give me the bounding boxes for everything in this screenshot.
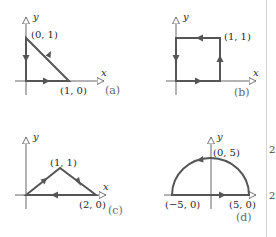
point-label-a-1-0: (1, 0) <box>60 85 87 96</box>
direction-arrow-icon <box>51 192 58 199</box>
point-label-d-5-0: (5, 0) <box>229 199 256 210</box>
panel-b: y x (1, 1) (b) <box>166 11 259 99</box>
direction-arrow-icon <box>195 78 202 85</box>
panel-c: y x (1, 1) (2, 0) (c) <box>15 131 123 217</box>
panel-tag-c: (c) <box>108 204 123 217</box>
panel-a: y x (0, 1) (1, 0) (a) <box>15 11 120 97</box>
direction-arrow-icon <box>219 192 226 199</box>
contour-a <box>26 38 69 81</box>
direction-arrow-icon <box>196 35 203 42</box>
point-label-c-1-1: (1, 1) <box>50 157 77 168</box>
y-axis-label-b: y <box>182 11 189 22</box>
edge-mark: 2 <box>269 190 275 201</box>
panel-tag-a: (a) <box>105 84 120 97</box>
panel-d: y (0, 5) (−5, 0) (5, 0) (d) <box>164 131 256 224</box>
x-axis-label-a: x <box>101 67 107 78</box>
point-label-c-2-0: (2, 0) <box>79 199 106 210</box>
point-label-d-neg5-0: (−5, 0) <box>165 199 200 210</box>
direction-arrow-icon <box>173 55 180 62</box>
panel-tag-b: (b) <box>234 86 250 99</box>
x-axis-label-c: x <box>103 181 109 192</box>
x-axis-label-b: x <box>253 67 259 78</box>
column-divider <box>266 0 267 237</box>
y-axis-label-d: y <box>216 131 223 142</box>
contour-c <box>26 168 96 195</box>
direction-arrow-icon <box>23 55 30 62</box>
contour-b <box>176 38 220 81</box>
y-axis-label-c: y <box>32 131 39 142</box>
panel-tag-d: (d) <box>236 211 252 224</box>
direction-arrow-icon <box>43 78 50 85</box>
diagram-figure: y x (0, 1) (1, 0) (a) y x (1, 1) (b) y x… <box>0 0 276 237</box>
direction-arrow-icon <box>75 177 81 186</box>
y-axis-label-a: y <box>32 11 39 22</box>
point-label-d-0-5: (0, 5) <box>213 147 240 158</box>
direction-arrow-icon <box>217 55 224 62</box>
axes-b <box>166 17 256 95</box>
edge-mark: 2 <box>269 144 275 155</box>
point-label-b-1-1: (1, 1) <box>224 31 251 42</box>
point-label-a-0-1: (0, 1) <box>31 29 58 40</box>
